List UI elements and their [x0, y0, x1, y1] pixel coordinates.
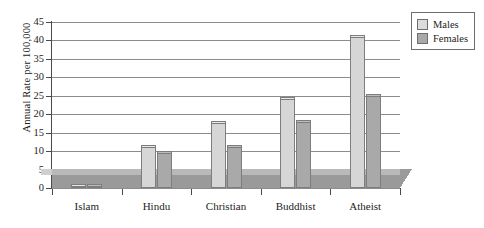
- bar-hindu-females: [157, 153, 172, 188]
- bar-face: [157, 153, 172, 188]
- x-axis-label-islam: Islam: [52, 200, 122, 212]
- y-tick-label: 25: [18, 91, 44, 101]
- x-tick-mark: [261, 189, 262, 195]
- y-tick-label: 20: [18, 109, 44, 119]
- bar-face: [366, 96, 381, 188]
- bar-top-face: [366, 94, 381, 97]
- legend-label-females: Females: [433, 33, 468, 44]
- bar-face: [296, 122, 311, 188]
- plot-area: [52, 22, 400, 188]
- legend-item-females[interactable]: Females: [417, 31, 468, 45]
- y-tick-label: 30: [18, 72, 44, 82]
- x-axis-label-christian: Christian: [191, 200, 261, 212]
- y-tick-label: 40: [18, 35, 44, 45]
- bar-buddhist-females: [296, 122, 311, 188]
- bar-hindu-males: [141, 147, 156, 188]
- bar-atheist-males: [350, 37, 365, 188]
- legend-swatch-males-icon: [417, 19, 428, 30]
- y-tick-label: 15: [18, 128, 44, 138]
- bar-face: [280, 99, 295, 188]
- bar-christian-females: [227, 147, 242, 188]
- bar-face: [141, 147, 156, 188]
- bar-face: [350, 37, 365, 188]
- x-axis-label-hindu: Hindu: [122, 200, 192, 212]
- x-tick-mark: [400, 189, 401, 195]
- bar-christian-males: [211, 123, 226, 188]
- y-tick-label: 35: [18, 54, 44, 64]
- bar-top-face: [141, 145, 156, 148]
- bar-top-face: [157, 151, 172, 154]
- y-tick-label: 10: [18, 146, 44, 156]
- bar-top-face: [87, 184, 102, 187]
- bar-top-face: [296, 120, 311, 123]
- bar-top-face: [280, 97, 295, 100]
- bar-islam-males: [71, 186, 86, 188]
- bar-face: [211, 123, 226, 188]
- bar-atheist-females: [366, 96, 381, 188]
- legend-swatch-females-icon: [417, 33, 428, 44]
- bar-top-face: [71, 184, 86, 187]
- bar-top-face: [350, 35, 365, 38]
- bar-face: [227, 147, 242, 188]
- x-tick-mark: [122, 189, 123, 195]
- bar-buddhist-males: [280, 99, 295, 188]
- bar-top-face: [211, 121, 226, 124]
- floor-right-bevel: [400, 169, 412, 188]
- x-axis-label-atheist: Atheist: [330, 200, 400, 212]
- legend-label-males: Males: [433, 19, 459, 30]
- y-tick-label: 0: [18, 183, 44, 193]
- bar-islam-females: [87, 186, 102, 188]
- x-tick-mark: [191, 189, 192, 195]
- bar-chart: Annual Rate per 100,000 0510152025303540…: [0, 0, 484, 228]
- legend: Males Females: [411, 12, 475, 50]
- y-tick-label: 45: [18, 17, 44, 27]
- x-axis-label-buddhist: Buddhist: [261, 200, 331, 212]
- x-tick-mark: [52, 189, 53, 195]
- legend-item-males[interactable]: Males: [417, 17, 468, 31]
- x-tick-mark: [330, 189, 331, 195]
- gridline: [52, 188, 400, 189]
- bar-top-face: [227, 145, 242, 148]
